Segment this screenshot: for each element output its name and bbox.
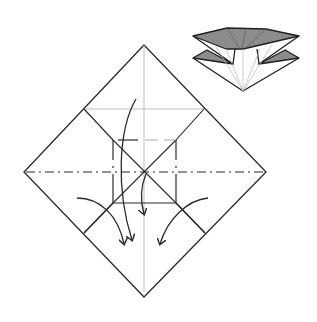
origami-diagram xyxy=(0,0,317,322)
result-preview xyxy=(193,28,299,91)
